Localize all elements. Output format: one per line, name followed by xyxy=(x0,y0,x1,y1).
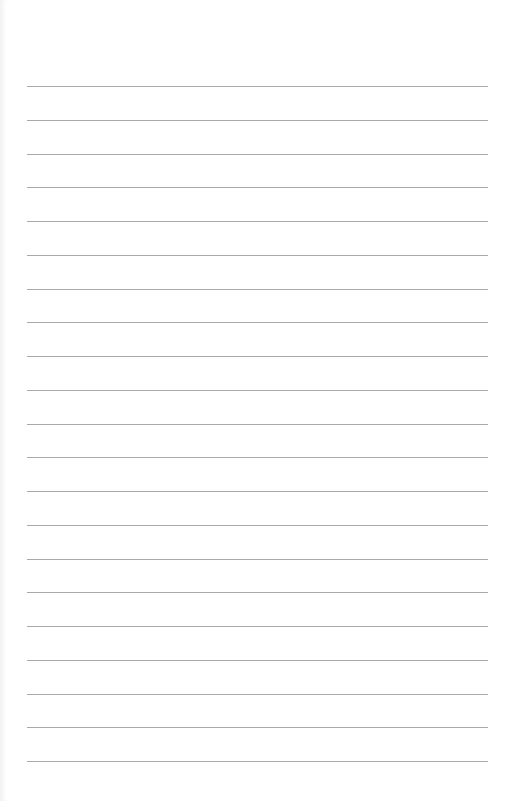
ruled-line xyxy=(27,761,488,762)
ruled-line xyxy=(27,255,488,256)
ruled-line xyxy=(27,660,488,661)
ruled-line xyxy=(27,626,488,627)
ruled-line xyxy=(27,592,488,593)
ruled-line xyxy=(27,221,488,222)
ruled-line xyxy=(27,120,488,121)
ruled-line xyxy=(27,86,488,87)
ruled-line xyxy=(27,390,488,391)
ruled-line xyxy=(27,424,488,425)
ruled-line xyxy=(27,356,488,357)
ruled-line xyxy=(27,727,488,728)
ruled-line xyxy=(27,525,488,526)
ruled-line xyxy=(27,187,488,188)
ruled-line xyxy=(27,289,488,290)
ruled-line xyxy=(27,559,488,560)
lined-paper xyxy=(0,0,513,801)
ruled-line xyxy=(27,457,488,458)
ruled-line xyxy=(27,491,488,492)
ruled-line xyxy=(27,154,488,155)
ruled-line xyxy=(27,694,488,695)
ruled-line xyxy=(27,322,488,323)
